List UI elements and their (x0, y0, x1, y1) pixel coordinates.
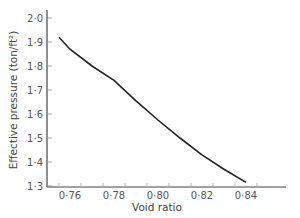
y-tick-label: 1·7 (27, 85, 43, 96)
y-ticks: 1·31·41·51·61·71·81·92·0 (27, 13, 52, 192)
x-tick-label: 0·80 (147, 190, 169, 201)
x-tick-label: 0·78 (103, 190, 125, 201)
y-tick-label: 1·8 (27, 61, 43, 72)
y-axis-title: Effective pressure (ton/ft²) (7, 31, 19, 170)
y-tick-label: 1·6 (27, 109, 43, 120)
x-axis-title: Void ratio (132, 201, 182, 213)
y-tick-label: 2·0 (27, 13, 43, 24)
y-tick-label: 1·5 (27, 133, 43, 144)
y-tick-label: 1·4 (27, 157, 43, 168)
x-tick-label: 0·84 (235, 190, 257, 201)
chart: 1·31·41·51·61·71·81·92·0 0·760·780·800·8… (0, 0, 300, 218)
x-ticks: 0·760·780·800·820·84 (59, 183, 257, 201)
data-line (59, 37, 246, 182)
x-tick-label: 0·76 (59, 190, 81, 201)
x-tick-label: 0·82 (191, 190, 213, 201)
y-tick-label: 1·9 (27, 37, 43, 48)
y-tick-label: 1·3 (27, 181, 43, 192)
